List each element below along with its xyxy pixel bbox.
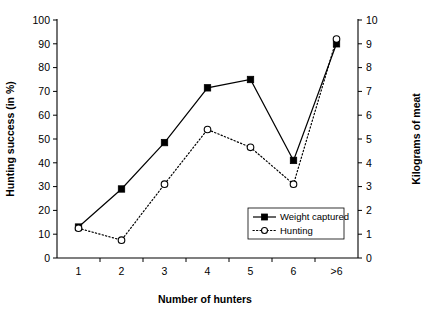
data-point[interactable] [290, 181, 297, 188]
y-tick-label: 10 [38, 228, 50, 240]
data-point[interactable] [118, 237, 125, 244]
hunting-success-chart: 0102030405060708090100 012345678910 1234… [0, 0, 430, 315]
y2-tick-label: 7 [366, 85, 372, 97]
y-tick-label: 40 [38, 157, 50, 169]
y-tick-label: 60 [38, 109, 50, 121]
y2-tick-label: 2 [366, 204, 372, 216]
data-point[interactable] [118, 186, 124, 192]
y-tick-label: 20 [38, 204, 50, 216]
legend-marker-1 [262, 214, 268, 220]
y-tick-label: 0 [44, 252, 50, 264]
legend-marker-2 [262, 228, 268, 234]
x-axis: 123456>6 [57, 258, 358, 277]
x-tick-label: >6 [331, 265, 343, 277]
y2-tick-label: 1 [366, 228, 372, 240]
chart-canvas: 0102030405060708090100 012345678910 1234… [0, 0, 430, 315]
y-tick-label: 100 [32, 14, 50, 26]
x-tick-label: 6 [291, 265, 297, 277]
x-tick-label: 1 [76, 265, 82, 277]
legend-label-2: Hunting [280, 225, 313, 236]
y-tick-label: 90 [38, 38, 50, 50]
x-tick-label: 4 [205, 265, 211, 277]
y2-axis-title: Kilograms of meat [410, 93, 422, 185]
data-point[interactable] [247, 144, 254, 151]
data-point[interactable] [161, 181, 168, 188]
chart-legend[interactable]: Weight capturedHunting [248, 208, 349, 239]
x-tick-label: 2 [119, 265, 125, 277]
y2-tick-label: 5 [366, 133, 372, 145]
legend-label-1: Weight captured [280, 211, 349, 222]
y2-tick-label: 6 [366, 109, 372, 121]
left-axis: 0102030405060708090100 [32, 14, 57, 264]
y2-tick-label: 4 [366, 157, 372, 169]
y2-tick-label: 8 [366, 61, 372, 73]
data-point[interactable] [75, 225, 82, 232]
y-tick-label: 30 [38, 180, 50, 192]
y2-tick-label: 10 [366, 14, 378, 26]
y2-tick-label: 0 [366, 252, 372, 264]
y-tick-label: 70 [38, 85, 50, 97]
y-axis-title: Hunting success (in %) [4, 81, 16, 197]
data-point[interactable] [161, 139, 167, 145]
data-point[interactable] [204, 126, 211, 133]
right-axis: 012345678910 [358, 14, 378, 264]
data-point[interactable] [204, 85, 210, 91]
y2-tick-label: 9 [366, 38, 372, 50]
y2-tick-label: 3 [366, 180, 372, 192]
x-tick-label: 3 [162, 265, 168, 277]
y-tick-label: 50 [38, 133, 50, 145]
x-tick-label: 5 [248, 265, 254, 277]
series-line-1 [79, 44, 337, 227]
x-axis-title: Number of hunters [158, 293, 252, 305]
data-point[interactable] [247, 76, 253, 82]
data-point[interactable] [333, 36, 340, 43]
y-tick-label: 80 [38, 61, 50, 73]
data-point[interactable] [290, 157, 296, 163]
